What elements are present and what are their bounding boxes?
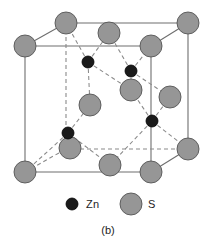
atom-s: [59, 137, 81, 159]
zinc-atoms: [62, 56, 158, 139]
atom-zn: [82, 56, 94, 68]
atom-s: [140, 35, 162, 57]
atom-zn: [125, 65, 137, 77]
legend-zn-label: Zn: [86, 198, 99, 210]
atom-s: [140, 161, 162, 183]
legend-markers: [66, 193, 142, 215]
crystal-structure-figure: Zn S (b): [0, 0, 216, 251]
atom-s: [14, 161, 36, 183]
atom-s: [159, 86, 181, 108]
atom-s: [98, 22, 120, 44]
atom-zn: [62, 127, 74, 139]
atom-s: [177, 138, 199, 160]
atom-zn: [146, 115, 158, 127]
legend-zn-marker-icon: [66, 198, 78, 210]
atom-s: [99, 154, 121, 176]
atom-s: [79, 94, 101, 116]
legend-s-label: S: [148, 198, 156, 210]
atom-s: [55, 12, 77, 34]
legend-s-marker-icon: [120, 193, 142, 215]
zinc-blende-lattice-diagram: [0, 0, 216, 251]
atom-s: [177, 12, 199, 34]
atom-s: [120, 79, 142, 101]
panel-caption: (b): [0, 224, 216, 236]
atom-s: [14, 35, 36, 57]
